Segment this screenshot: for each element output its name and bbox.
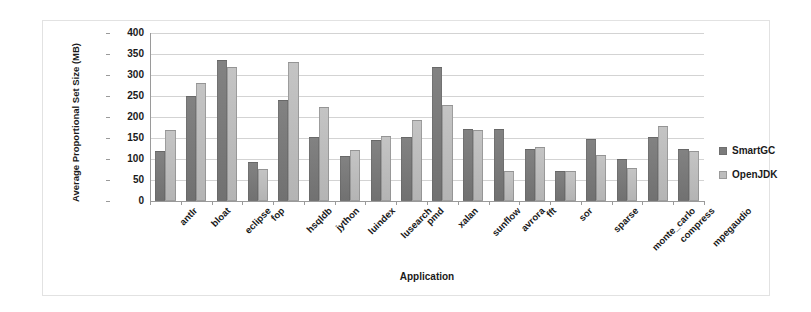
bar-sor-smartgc[interactable] [555,171,565,201]
bar-eclipse-smartgc[interactable] [217,60,227,201]
x-axis-tick-label: eclipse [242,205,273,236]
x-axis-tick-label: hsqldb [304,205,334,235]
y-axis-tick-mark [106,96,110,97]
bar-mpegaudio-openjdk[interactable] [689,151,699,201]
bar-antlr-openjdk[interactable] [165,130,175,201]
x-axis-tick-label: antlr [177,205,199,227]
x-axis-tick-mark [704,201,705,205]
bar-group [304,33,335,201]
bar-sor-openjdk[interactable] [565,171,575,201]
bar-group [458,33,489,201]
bar-group [673,33,704,201]
y-axis-tick-label: 250 [110,91,144,101]
bar-monte_carlo-smartgc[interactable] [617,159,627,201]
y-axis-tick-label: 100 [110,154,144,164]
y-axis-tick-mark [106,180,110,181]
bar-group [612,33,643,201]
bar-group [581,33,612,201]
y-axis-tick-mark [106,75,110,76]
bar-sunflow-smartgc[interactable] [463,129,473,201]
x-axis-tick-label: sor [576,205,594,223]
bar-hsqldb-smartgc[interactable] [278,100,288,201]
bar-group [181,33,212,201]
x-axis-tick-label: jython [334,205,362,233]
plot-area: 400350300250200150100500 [150,33,704,201]
bar-group [335,33,366,201]
bar-antlr-smartgc[interactable] [155,151,165,201]
bar-group [550,33,581,201]
y-axis-title: Average Proportional Set Size (MB) [70,23,81,223]
bar-compress-smartgc[interactable] [648,137,658,201]
bar-avrora-smartgc[interactable] [494,129,504,201]
bar-fop-openjdk[interactable] [258,169,268,201]
y-axis-tick-mark [106,54,110,55]
legend-label: OpenJDK [732,169,778,180]
bar-jython-smartgc[interactable] [309,137,319,201]
bar-lusearch-smartgc[interactable] [371,140,381,201]
bar-sparse-openjdk[interactable] [596,155,606,201]
bar-luindex-smartgc[interactable] [340,156,350,201]
x-axis-tick-label: fft [544,205,558,219]
y-axis-tick-label: 0 [110,196,144,206]
chart-container: Average Proportional Set Size (MB) 40035… [42,20,770,296]
y-axis-tick-label: 350 [110,49,144,59]
legend-entry-smartgc[interactable]: SmartGC [719,145,809,156]
bar-compress-openjdk[interactable] [658,126,668,201]
y-axis-tick-label: 300 [110,70,144,80]
y-axis-tick-label: 50 [110,175,144,185]
x-axis-tick-label: fop [268,205,286,223]
bar-group [642,33,673,201]
chart-legend: SmartGCOpenJDK [719,145,809,193]
bar-group [427,33,458,201]
y-axis-tick-label: 150 [110,133,144,143]
y-axis-tick-mark [106,138,110,139]
bar-pmd-openjdk[interactable] [412,120,422,201]
bar-jython-openjdk[interactable] [319,107,329,202]
bar-group [212,33,243,201]
bar-sparse-smartgc[interactable] [586,139,596,201]
bar-sunflow-openjdk[interactable] [473,130,483,201]
x-axis-tick-labels: antlrbloateclipsefophsqldbjythonluindexl… [150,205,704,267]
bar-hsqldb-openjdk[interactable] [288,62,298,201]
bar-group [489,33,520,201]
bar-fft-openjdk[interactable] [535,147,545,201]
bar-pmd-smartgc[interactable] [401,137,411,201]
bar-group [396,33,427,201]
y-axis-tick-mark [106,201,110,202]
y-axis-tick-mark [106,159,110,160]
bar-xalan-openjdk[interactable] [442,105,452,201]
x-axis-title: Application [150,271,704,282]
bar-luindex-openjdk[interactable] [350,150,360,201]
legend-swatch-icon [719,147,727,155]
legend-label: SmartGC [732,145,775,156]
x-axis-tick-label: xalan [455,205,480,230]
x-axis-tick-label: bloat [209,205,233,229]
bar-fop-smartgc[interactable] [248,162,258,201]
y-axis-tick-label: 400 [110,28,144,38]
y-axis-tick-mark [106,33,110,34]
bar-group [519,33,550,201]
y-axis-tick-label: 200 [110,112,144,122]
x-axis-tick-label: avrora [518,205,546,233]
x-axis-tick-label: sunflow [490,205,523,238]
bar-bloat-smartgc[interactable] [186,96,196,201]
bar-lusearch-openjdk[interactable] [381,136,391,201]
bar-series-layer [150,33,704,201]
bar-group [273,33,304,201]
bar-monte_carlo-openjdk[interactable] [627,168,637,201]
bar-fft-smartgc[interactable] [525,149,535,202]
bar-group [365,33,396,201]
bar-group [242,33,273,201]
x-axis-tick-label: sparse [611,205,640,234]
y-axis-tick-labels: 400350300250200150100500 [110,33,144,201]
y-axis-tick-mark [106,117,110,118]
bar-mpegaudio-smartgc[interactable] [678,149,688,202]
legend-entry-openjdk[interactable]: OpenJDK [719,169,809,180]
bar-xalan-smartgc[interactable] [432,67,442,201]
bar-group [150,33,181,201]
bar-bloat-openjdk[interactable] [196,83,206,201]
x-axis-tick-label: luindex [366,205,397,236]
legend-swatch-icon [719,171,727,179]
bar-avrora-openjdk[interactable] [504,171,514,201]
bar-eclipse-openjdk[interactable] [227,67,237,201]
